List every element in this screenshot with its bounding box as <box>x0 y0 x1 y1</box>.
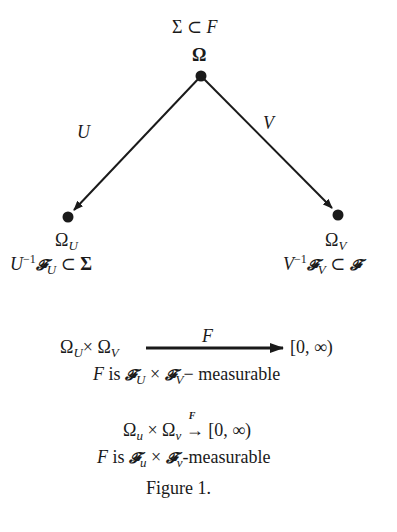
edge-v-label: V <box>263 113 274 134</box>
edge-v-arrow <box>201 76 332 208</box>
right-node-annotation: V−1𝓕V ⊂ 𝓕 <box>283 252 361 278</box>
edge-u-arrow <box>74 76 201 210</box>
left-node-annotation: U−1𝓕U ⊂ Σ <box>10 252 92 278</box>
top-node-annotation: Σ ⊂ F <box>172 16 218 38</box>
map-f-label: F <box>202 326 213 347</box>
measurable-statement-2: F is 𝓕u × 𝓕v-measurable <box>97 447 270 471</box>
edge-u-label: U <box>77 122 90 143</box>
figure-caption: Figure 1. <box>146 478 211 499</box>
map2-f-label: F <box>189 410 196 421</box>
right-node-label: ΩV <box>325 230 346 254</box>
map-domain: ΩU× ΩV <box>60 337 119 361</box>
map2-expression: Ωu × Ωv F → [0, ∞) <box>123 420 251 444</box>
map-codomain: [0, ∞) <box>290 337 333 358</box>
left-node-dot <box>63 212 74 223</box>
left-node-label: ΩU <box>55 230 78 254</box>
map2-arrow: → <box>186 420 204 440</box>
right-node-dot <box>333 210 344 221</box>
measurable-statement-1: F is 𝓕U × 𝓕V− measurable <box>93 364 280 388</box>
top-node-label: Ω <box>192 45 206 66</box>
